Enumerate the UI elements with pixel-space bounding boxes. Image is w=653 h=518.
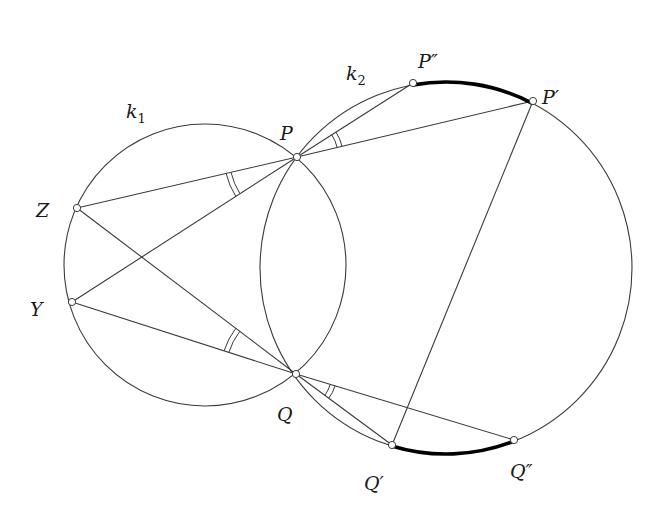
circle-label-k1: k1: [126, 100, 146, 126]
segment-Y-Q: [72, 302, 296, 374]
angle-mark-icon: [226, 173, 236, 196]
point-P2: [409, 79, 416, 86]
angle-mark-icon: [336, 132, 342, 146]
segment-P1-Q1: [392, 101, 533, 445]
point-label-P: P: [279, 122, 294, 144]
point-Q: [292, 370, 299, 377]
segment-Q-Q1: [296, 374, 392, 445]
point-label-Q1: Q′: [364, 472, 385, 494]
segment-P-P2: [297, 83, 413, 157]
point-label-Q2: Q″: [510, 460, 533, 482]
labels-layer: PQZYP″P′Q′Q″k1k2: [30, 50, 560, 494]
segment-Q-Q2: [296, 374, 514, 440]
segment-P-P1: [297, 101, 533, 157]
highlighted-arc-P2-P1: [413, 82, 532, 103]
circles-layer: [64, 82, 632, 454]
circle-label-k2: k2: [346, 62, 366, 88]
angle-mark-icon: [332, 135, 337, 148]
geometry-diagram: PQZYP″P′Q′Q″k1k2: [0, 0, 653, 518]
highlighted-arcs-layer: [392, 82, 532, 454]
point-Z: [73, 204, 80, 211]
point-label-Y: Y: [30, 298, 45, 320]
angle-mark-icon: [229, 331, 240, 352]
circle-k1: [64, 124, 346, 406]
point-label-Q: Q: [277, 403, 293, 425]
point-Y: [68, 298, 75, 305]
highlighted-arc-Q1-Q2: [392, 441, 515, 454]
point-label-P2: P″: [417, 50, 438, 72]
point-label-Z: Z: [35, 199, 50, 221]
point-P: [293, 153, 300, 160]
angle-mark-icon: [325, 384, 330, 395]
circle-k2: [260, 82, 632, 454]
point-Q2: [510, 436, 517, 443]
point-Q1: [388, 441, 395, 448]
segment-Z-P: [77, 157, 297, 208]
angle-mark-icon: [329, 386, 335, 398]
point-label-P1: P′: [541, 86, 560, 108]
point-P1: [529, 97, 536, 104]
